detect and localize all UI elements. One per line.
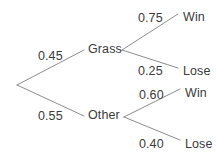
probability-label-grass: 0.45 <box>38 49 63 63</box>
probability-tree-diagram: Grass Other 0.45 0.55 0.75 Win 0.25 Lose… <box>0 0 217 160</box>
tree-branches-svg <box>0 0 217 160</box>
probability-label-other: 0.55 <box>38 109 63 123</box>
node-label-other-lose: Lose <box>185 137 213 151</box>
node-label-grass-lose: Lose <box>183 64 211 78</box>
node-label-grass-win: Win <box>183 10 205 24</box>
probability-label-other-lose: 0.40 <box>139 137 164 151</box>
node-label-other-win: Win <box>185 86 207 100</box>
probability-label-other-win: 0.60 <box>139 88 164 102</box>
node-label-grass: Grass <box>88 42 122 56</box>
node-label-other: Other <box>88 108 120 122</box>
probability-label-grass-lose: 0.25 <box>138 64 163 78</box>
probability-label-grass-win: 0.75 <box>138 11 163 25</box>
